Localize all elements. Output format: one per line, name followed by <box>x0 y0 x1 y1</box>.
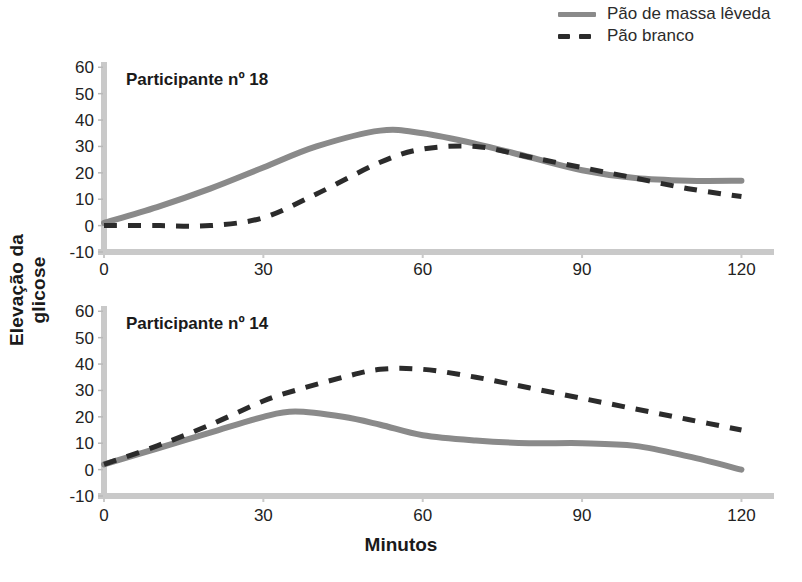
plot-area-bottom <box>104 306 768 496</box>
y-tick-label: 10 <box>75 435 94 452</box>
x-tick-labels-bottom: 0306090120 <box>104 502 768 528</box>
x-tick-label: 60 <box>413 506 432 526</box>
y-tick-labels-top: -100102030405060 <box>58 56 102 258</box>
y-tick-label: 50 <box>75 85 94 102</box>
x-tick-label: 60 <box>413 260 432 280</box>
legend-label-sourdough: Pão de massa lêveda <box>607 4 771 24</box>
x-tick-label: 120 <box>727 506 755 526</box>
y-tick-label: 60 <box>75 59 94 76</box>
y-tick-label: 0 <box>85 461 94 478</box>
y-tick-label: 20 <box>75 408 94 425</box>
solid-line-swatch-icon <box>556 7 598 21</box>
x-tick-label: 0 <box>99 506 108 526</box>
y-tick-label: 40 <box>75 356 94 373</box>
chart-page: Pão de massa lêveda Pão branco Elevação … <box>0 0 802 582</box>
y-tick-labels-bottom: -100102030405060 <box>58 300 102 502</box>
y-tick-label: -10 <box>69 488 94 505</box>
x-tick-label: 120 <box>727 260 755 280</box>
y-tick-label: 10 <box>75 191 94 208</box>
x-axis-title: Minutos <box>0 534 802 556</box>
x-tick-label: 0 <box>99 260 108 280</box>
legend-item-whitebread: Pão branco <box>556 25 802 47</box>
y-tick-label: 50 <box>75 329 94 346</box>
x-tick-label: 90 <box>573 260 592 280</box>
series-line-dashed <box>104 146 741 226</box>
legend-item-sourdough: Pão de massa lêveda <box>556 3 802 25</box>
chart-legend: Pão de massa lêveda Pão branco <box>556 3 802 47</box>
y-tick-label: 0 <box>85 217 94 234</box>
x-tick-label: 30 <box>254 506 273 526</box>
x-tick-labels-top: 0306090120 <box>104 256 768 282</box>
y-tick-label: 40 <box>75 112 94 129</box>
y-tick-label: 20 <box>75 164 94 181</box>
legend-label-whitebread: Pão branco <box>607 26 694 46</box>
chart-panel-participante-18: Participante nº 18 -100102030405060 0306… <box>58 56 788 286</box>
y-tick-label: -10 <box>69 244 94 261</box>
y-tick-label: 60 <box>75 303 94 320</box>
chart-panel-participante-14: Participante nº 14 -100102030405060 0306… <box>58 300 788 532</box>
x-tick-label: 30 <box>254 260 273 280</box>
series-line-solid <box>104 130 741 223</box>
x-tick-label: 90 <box>573 506 592 526</box>
y-tick-label: 30 <box>75 382 94 399</box>
y-axis-title: Elevação da glicose <box>6 200 50 380</box>
plot-area-top <box>104 62 768 252</box>
series-line-solid <box>104 412 741 470</box>
y-tick-label: 30 <box>75 138 94 155</box>
dashed-line-swatch-icon <box>556 29 598 43</box>
